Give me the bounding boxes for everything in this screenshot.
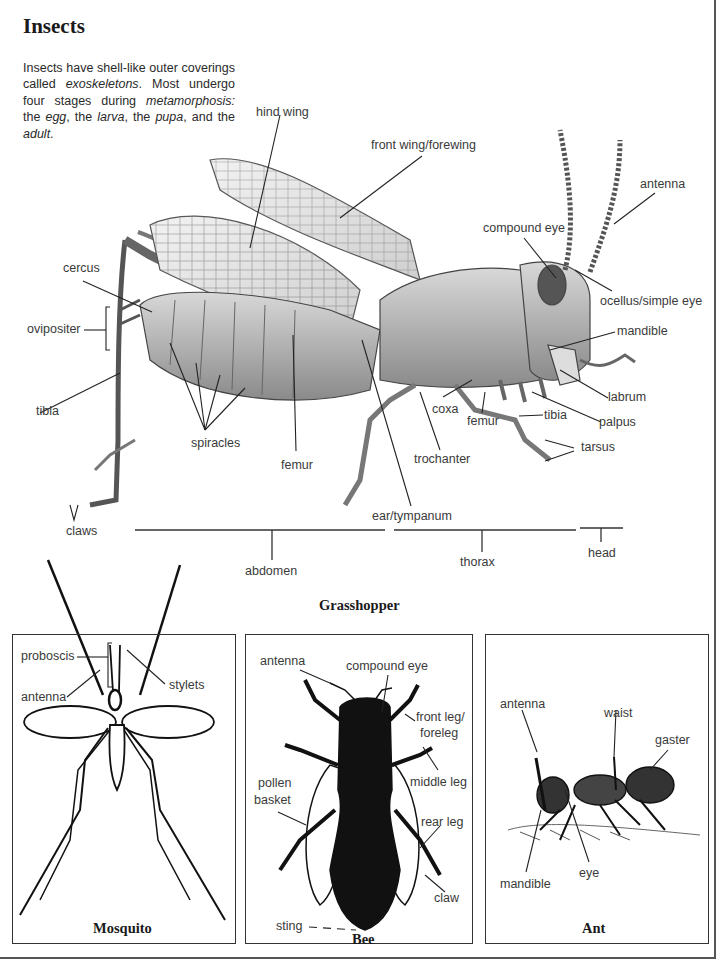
label-tarsus: tarsus	[581, 441, 615, 454]
label-cercus: cercus	[63, 262, 100, 275]
mosquito-label-stylets: stylets	[169, 679, 204, 692]
ant-label-antenna: antenna	[500, 698, 545, 711]
label-ovipositer: ovipositer	[27, 323, 81, 336]
ant-panel	[485, 634, 709, 944]
label-tibia-front: tibia	[544, 409, 567, 422]
label-mandible: mandible	[617, 325, 668, 338]
ant-label-mandible: mandible	[500, 878, 551, 891]
bee-label-rear-leg: rear leg	[421, 816, 463, 829]
label-spiracles: spiracles	[191, 437, 240, 450]
bee-label-middle-leg: middle leg	[410, 776, 467, 789]
ant-label-gaster: gaster	[655, 734, 690, 747]
bee-label-claw: claw	[434, 892, 459, 905]
grasshopper-antenna	[560, 130, 570, 270]
bee-label-sting: sting	[276, 920, 302, 933]
grasshopper-compound-eye	[538, 265, 566, 305]
grasshopper-hind-leg	[90, 240, 125, 505]
label-front-wing: front wing/forewing	[371, 139, 476, 152]
label-head: head	[588, 547, 616, 560]
bee-label-front-leg: front leg/	[416, 711, 465, 724]
label-ear-tympanum: ear/tympanum	[372, 510, 452, 523]
label-tibia-hind: tibia	[36, 405, 59, 418]
label-femur-front: femur	[467, 415, 499, 428]
label-thorax: thorax	[460, 556, 495, 569]
label-antenna: antenna	[640, 178, 685, 191]
mosquito-label-antenna: antenna	[21, 691, 66, 704]
caption-bee: Bee	[352, 931, 375, 948]
grasshopper-drawing	[90, 130, 635, 505]
mosquito-label-proboscis: proboscis	[21, 650, 75, 663]
label-hind-wing: hind wing	[256, 106, 309, 119]
caption-mosquito: Mosquito	[93, 920, 152, 937]
bee-label-pollen: pollen	[258, 777, 291, 790]
caption-grasshopper: Grasshopper	[319, 597, 400, 614]
label-labrum: labrum	[608, 391, 646, 404]
label-claws: claws	[66, 525, 97, 538]
label-palpus: palpus	[599, 416, 636, 429]
label-ocellus: ocellus/simple eye	[600, 295, 702, 308]
label-trochanter: trochanter	[414, 453, 470, 466]
label-coxa: coxa	[432, 403, 458, 416]
ant-label-eye: eye	[579, 867, 599, 880]
bee-label-basket: basket	[254, 794, 291, 807]
label-femur-hind: femur	[281, 459, 313, 472]
label-compound-eye: compound eye	[483, 222, 565, 235]
caption-ant: Ant	[582, 920, 605, 937]
bee-label-foreleg: foreleg	[420, 727, 458, 740]
grasshopper-thorax	[380, 268, 540, 387]
ant-label-waist: waist	[604, 707, 632, 720]
body-segment-brackets	[135, 528, 623, 560]
label-abdomen: abdomen	[245, 565, 297, 578]
bee-label-compound-eye: compound eye	[346, 660, 428, 673]
bee-label-antenna: antenna	[260, 655, 305, 668]
